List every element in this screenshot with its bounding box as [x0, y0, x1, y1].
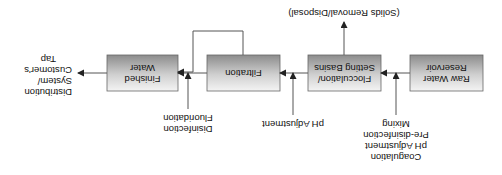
distribution-label: Distribution System/ Customer's Tap	[24, 54, 72, 98]
chem-label-coagulation: Coagulation pH Adjustment Pre-disinfecti…	[363, 119, 428, 163]
svg-text:System/: System/	[37, 76, 72, 87]
box-label-line1: Filtration	[225, 68, 261, 79]
chem-label-disinfection-fluoridation: Disinfection Fluoridation	[163, 113, 213, 135]
svg-text:Mixing: Mixing	[382, 119, 409, 130]
svg-text:Tap: Tap	[41, 54, 56, 65]
svg-text:Customer's: Customer's	[24, 65, 72, 76]
box-label-line1: Raw Water	[423, 74, 470, 85]
svg-text:Fluoridation: Fluoridation	[163, 113, 213, 124]
box-flocculation-settling-basins: Flocculation/ Setting Basins	[308, 55, 381, 91]
box-raw-water-reservoir: Raw Water Reservoir	[410, 55, 483, 91]
box-label-line1: Flocculation/	[317, 74, 371, 85]
solids-removal-label: (Solids Removal/Disposal)	[288, 8, 399, 19]
svg-text:Disinfection: Disinfection	[163, 124, 212, 135]
svg-text:Coagulation: Coagulation	[371, 152, 422, 163]
diagram-canvas: Raw Water Reservoir Flocculation/ Settin…	[0, 0, 502, 175]
box-label-line2: Reservoir	[426, 63, 467, 74]
process-flow-diagram: Raw Water Reservoir Flocculation/ Settin…	[0, 0, 502, 175]
svg-text:Pre-disinfection: Pre-disinfection	[363, 130, 428, 141]
svg-text:pH Adjustment: pH Adjustment	[365, 141, 427, 152]
box-label-line1: Finished	[125, 74, 161, 85]
box-label-line2: Water	[130, 63, 155, 74]
box-label-line2: Setting Basins	[314, 63, 375, 74]
svg-text:Distribution: Distribution	[24, 87, 72, 98]
svg-text:pH Adjustment: pH Adjustment	[262, 119, 324, 130]
box-finished-water: Finished Water	[107, 55, 178, 91]
rotated-diagram-group: Raw Water Reservoir Flocculation/ Settin…	[24, 8, 483, 163]
box-filtration: Filtration	[207, 55, 280, 91]
chem-label-ph-adjustment: pH Adjustment	[262, 119, 324, 130]
